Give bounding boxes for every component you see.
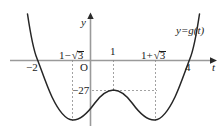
curve-y-equals-g-of-t (28, 14, 200, 120)
tick-label-one: 1 (110, 46, 116, 57)
tick-one-minus-root3-lead: 1− (59, 49, 71, 61)
radical-icon: √ (71, 50, 78, 61)
graph-figure: y t y=g(t) 1−√3 1 1+√3 −2 O 4 −27 (0, 0, 224, 137)
y-axis-label: y (81, 17, 86, 28)
tick-one-plus-root3-lead: 1+ (141, 49, 153, 61)
tick-label-four: 4 (185, 62, 191, 73)
radical-icon-2: √ (153, 50, 160, 61)
tick-label-minus-27: −27 (72, 85, 89, 96)
tick-label-minus-two: −2 (26, 62, 38, 73)
tick-label-one-minus-root3: 1−√3 (59, 46, 83, 62)
x-axis-label: t (212, 62, 215, 73)
tick-label-one-plus-root3: 1+√3 (141, 46, 165, 62)
origin-label: O (80, 62, 88, 73)
curve-label: y=g(t) (176, 25, 204, 36)
